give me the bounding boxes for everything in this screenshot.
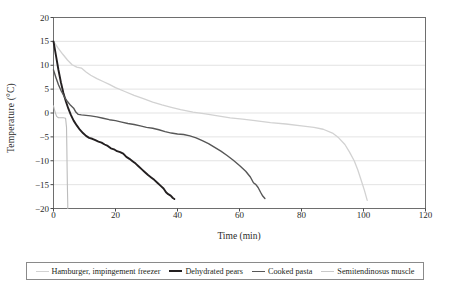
legend-label: Cooked pasta <box>268 267 312 276</box>
legend-item[interactable]: Dehydrated pears <box>169 267 243 276</box>
freezing-curves-chart: Temperature (°C) 20151050−5−10−15−20 020… <box>0 0 450 293</box>
legend-label: Semitendinosus muscle <box>337 267 414 276</box>
legend-line-swatch <box>36 271 49 272</box>
legend-label: Hamburger, impingement freezer <box>52 267 161 276</box>
legend-line-swatch <box>252 271 265 272</box>
chart-legend: Hamburger, impingement freezerDehydrated… <box>26 262 424 280</box>
legend-label: Dehydrated pears <box>185 267 243 276</box>
plot-area <box>0 0 450 293</box>
legend-line-swatch <box>321 271 334 272</box>
legend-line-swatch <box>169 270 182 272</box>
series-line-3 <box>54 106 68 209</box>
legend-item[interactable]: Cooked pasta <box>252 267 312 276</box>
legend-item[interactable]: Semitendinosus muscle <box>321 267 414 276</box>
legend-item[interactable]: Hamburger, impingement freezer <box>36 267 161 276</box>
x-axis-label: Time (min) <box>53 231 425 241</box>
